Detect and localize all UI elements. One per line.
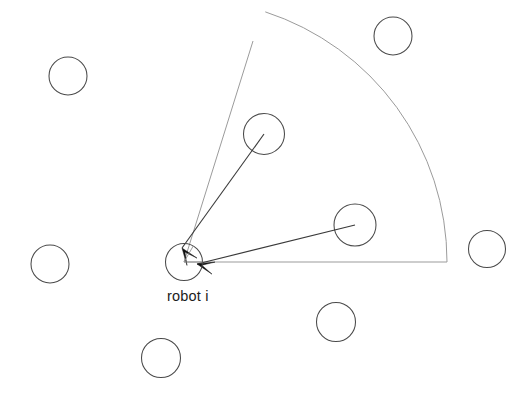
sector-angular-edge: [184, 41, 253, 262]
inside-neighbor-group: [244, 114, 377, 247]
neighbor-top-right: [374, 17, 412, 55]
sector-range-arc: [265, 12, 447, 262]
neighbor-bottom: [142, 339, 181, 378]
diagram-canvas: robot i: [0, 0, 530, 395]
outside-neighbor-group: [31, 17, 506, 378]
neighbor-right-edge: [469, 231, 506, 268]
robot-i-label: robot i: [167, 288, 209, 304]
neighbor-left: [31, 245, 69, 283]
sensing-sector-group: [184, 12, 447, 262]
neighbor-top-left: [49, 57, 87, 95]
neighbor-bottom-right: [317, 303, 356, 342]
vector-from-upper-neighbor: [182, 134, 264, 248]
relative-position-vector-group: [182, 134, 355, 274]
robot-sector-diagram: robot i: [0, 0, 530, 395]
vector-from-upper-neighbor-arrowhead: [182, 248, 197, 265]
vector-from-right-neighbor: [197, 225, 355, 264]
